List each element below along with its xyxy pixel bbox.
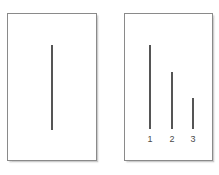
- comparison-line-3: [192, 98, 194, 129]
- comparison-line-label-3: 3: [186, 134, 200, 145]
- comparison-line-panel: 1 2 3: [124, 13, 213, 161]
- comparison-line-1: [149, 45, 151, 129]
- comparison-line-label-2: 2: [165, 134, 179, 145]
- figure-root: 1 2 3: [0, 0, 219, 175]
- standard-line-panel: [7, 13, 97, 161]
- comparison-line-label-1: 1: [143, 134, 157, 145]
- comparison-line-2: [171, 72, 173, 129]
- standard-line: [51, 45, 53, 130]
